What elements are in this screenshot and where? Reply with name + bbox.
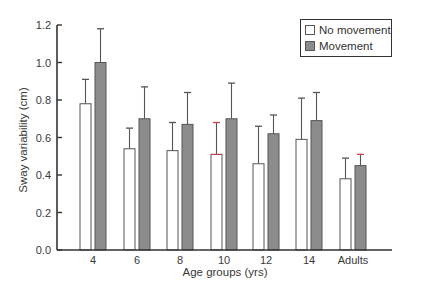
bar-series-group — [80, 29, 366, 250]
bar-no-movement — [253, 164, 264, 250]
bar-group-14 — [296, 93, 322, 251]
legend-item-no-movement: No movement — [305, 23, 391, 37]
bar-group-6 — [124, 87, 150, 250]
legend-label: No movement — [319, 24, 391, 36]
bar-no-movement — [80, 104, 91, 250]
bar-no-movement — [296, 139, 307, 250]
bar-no-movement — [124, 149, 135, 250]
y-tick-label: 0.8 — [36, 94, 51, 106]
x-tick-label: 12 — [260, 254, 272, 266]
bar-movement — [182, 124, 193, 250]
bar-group-10 — [211, 83, 237, 250]
bar-movement — [355, 166, 366, 250]
bar-movement — [226, 119, 237, 250]
bar-movement — [268, 134, 279, 250]
x-axis-label: Age groups (yrs) — [182, 266, 267, 278]
x-tick-label: 4 — [90, 254, 96, 266]
bar-no-movement — [211, 154, 222, 250]
bar-no-movement — [340, 179, 351, 250]
bar-group-8 — [167, 93, 193, 251]
y-axis-label: Sway variability (cm) — [17, 87, 29, 193]
y-tick-label: 0.6 — [36, 132, 51, 144]
y-tick-label: 0.0 — [36, 244, 51, 256]
bar-movement — [311, 121, 322, 250]
bar-group-12 — [253, 115, 279, 250]
legend-swatch-movement — [305, 41, 315, 51]
legend-item-movement: Movement — [305, 39, 373, 53]
bar-movement — [139, 119, 150, 250]
x-tick-label: 6 — [134, 254, 140, 266]
x-tick-label: 14 — [303, 254, 315, 266]
legend-label: Movement — [319, 40, 373, 52]
bar-no-movement — [167, 151, 178, 250]
y-tick-label: 1.2 — [36, 19, 51, 31]
y-tick-label: 0.4 — [36, 169, 51, 181]
chart-legend: No movement Movement — [300, 19, 392, 57]
bar-group-4 — [80, 29, 106, 250]
y-tick-label: 1.0 — [36, 57, 51, 69]
bar-movement — [95, 63, 106, 251]
y-tick-label: 0.2 — [36, 207, 51, 219]
bar-group-adults — [340, 154, 366, 250]
legend-swatch-no-movement — [305, 25, 315, 35]
x-tick-label: 10 — [218, 254, 230, 266]
x-tick-label: 8 — [177, 254, 183, 266]
x-tick-label: Adults — [338, 254, 369, 266]
